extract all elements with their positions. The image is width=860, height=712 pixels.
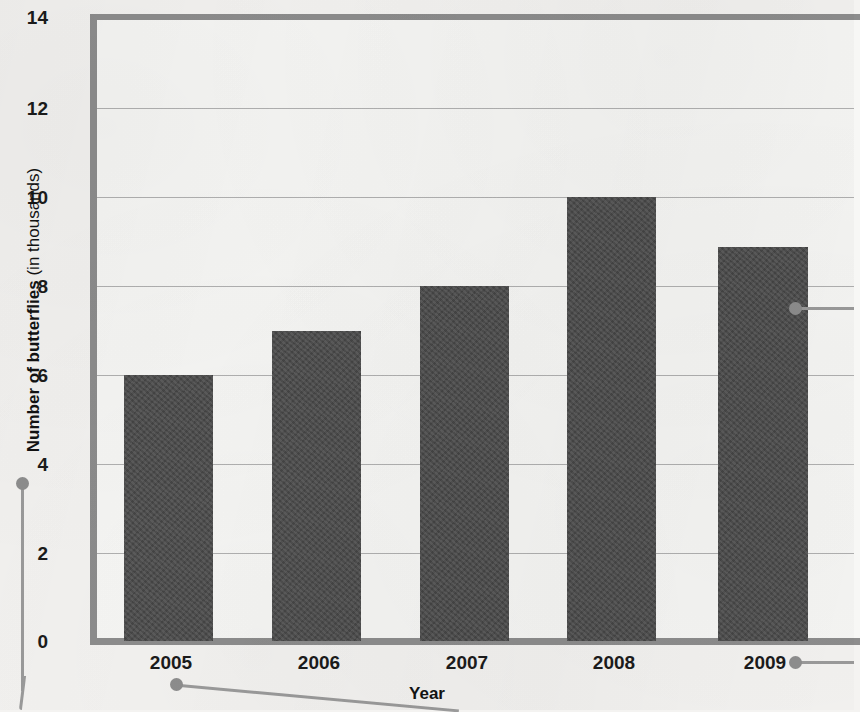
x-axis-title: Year [0,684,854,704]
xtick-label-2008: 2008 [554,652,674,674]
ytick-label-14: 14 [0,8,48,27]
y-axis-title: Number of butterflies (in thousands) [24,80,44,540]
xtick-label-2005: 2005 [111,652,231,674]
y-axis-title-light: (in thousands) [24,168,43,280]
last-bar-callout-dot [789,302,802,315]
last-bar-callout-line [799,307,854,310]
ytick-label-2: 2 [0,544,48,563]
y-axis-label-callout-line [21,486,24,691]
x-axis-title-text: Year [409,684,445,703]
xtick-label-2007: 2007 [407,652,527,674]
x-axis-label-callout-dot [170,678,183,691]
gridline-12 [97,108,854,109]
bar-2008 [567,197,656,641]
bar-2007 [420,286,509,641]
gridline-10 [97,197,854,198]
x-tick-2009-callout-line [799,661,854,664]
bar-2005 [124,375,213,641]
xtick-label-2006: 2006 [259,652,379,674]
bar-2006 [272,331,361,641]
y-axis-label-callout-dot [16,477,29,490]
x-tick-2009-callout-dot [789,656,802,669]
y-axis-title-bold: Number of butterflies [24,280,43,452]
plot-area [97,20,854,641]
ytick-label-0: 0 [0,632,48,651]
